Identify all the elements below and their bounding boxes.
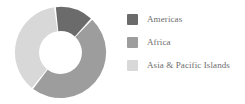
legend-item-africa[interactable]: Africa <box>127 34 171 50</box>
legend-item-asia-pacific-islands[interactable]: Asia & Pacific Islands <box>127 57 230 73</box>
donut-chart <box>12 4 109 101</box>
chart-legend: Americas Africa Asia & Pacific Islands <box>127 8 245 88</box>
legend-item-americas[interactable]: Americas <box>127 11 182 27</box>
chart-plot-area <box>0 0 122 104</box>
donut-slices <box>15 7 106 98</box>
legend-label-americas: Americas <box>147 14 182 25</box>
legend-swatch-asia-pacific-islands <box>127 60 138 71</box>
legend-label-asia-pacific-islands: Asia & Pacific Islands <box>147 60 230 71</box>
legend-swatch-africa <box>127 37 138 48</box>
legend-label-africa: Africa <box>147 37 171 48</box>
legend-swatch-americas <box>127 14 138 25</box>
donut-chart-figure: Americas Africa Asia & Pacific Islands <box>0 0 245 104</box>
